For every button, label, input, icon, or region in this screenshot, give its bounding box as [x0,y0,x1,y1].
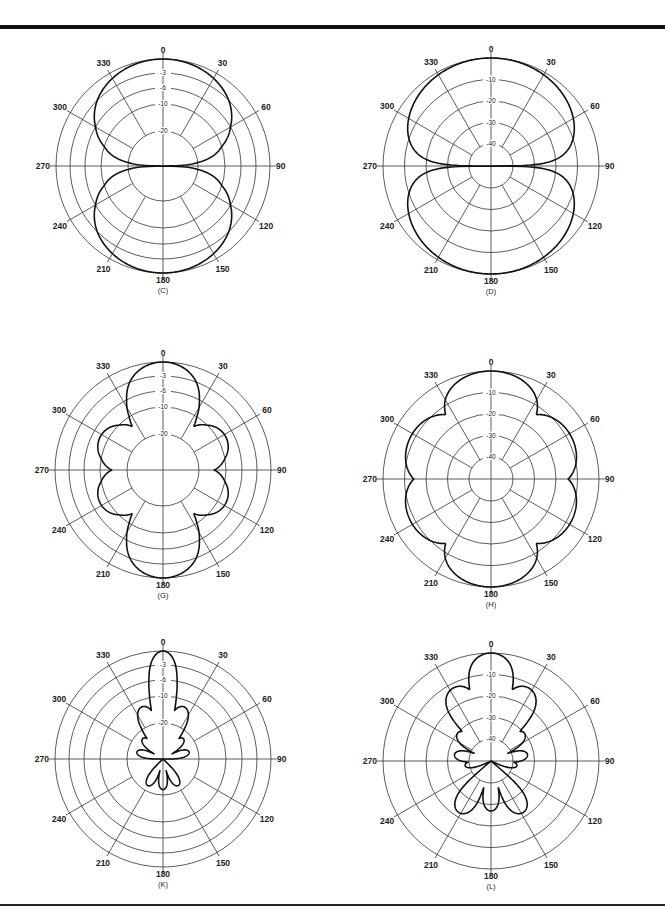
spoke-line [66,777,132,815]
polar-chart-L: 0306090120150180210240270300330-10-20-30… [363,639,615,891]
angle-label: 330 [96,650,110,660]
angle-label: 210 [96,569,110,579]
ring-label: -6 [160,387,166,394]
spoke-line [66,703,132,741]
spoke-line [502,185,547,263]
angle-label: 330 [424,57,438,67]
angle-label: 120 [259,221,273,231]
spoke-line [502,382,547,460]
spoke-line [194,414,260,452]
spoke-line [108,196,146,262]
angle-label: 90 [605,756,615,766]
angle-label: 30 [218,650,228,660]
spoke-line [194,777,260,815]
angle-label: 150 [216,858,230,868]
angle-label: 150 [544,578,558,588]
angle-label: 270 [363,161,377,171]
polar-chart-K: 0306090120150180210240270300330-3-6-10-2… [35,637,287,889]
ring-label: -6 [160,676,166,683]
angle-label: 270 [35,754,49,764]
angle-label: 120 [260,525,274,535]
angle-label: 330 [96,58,110,68]
spoke-line [435,69,480,147]
ring-label: -30 [486,432,496,439]
chart-caption: (H) [486,600,497,609]
angle-label: 60 [590,414,600,424]
angle-label: 270 [363,474,377,484]
angle-label: 90 [277,465,287,475]
angle-label: 120 [588,534,602,544]
angle-label: 60 [262,405,272,415]
angle-label: 300 [380,414,394,424]
ring-label: -30 [486,714,496,721]
spoke-line [510,772,588,817]
spoke-line [502,664,547,742]
ring-label: -30 [486,119,496,126]
angle-label: 240 [52,525,66,535]
angle-label: 240 [380,816,394,826]
angle-label: 60 [590,101,600,111]
angle-label: 30 [546,57,556,67]
chart-caption: (D) [486,287,497,296]
angle-label: 90 [276,161,286,171]
polar-chart-D: 0306090120150180210240270300330-10-20-30… [363,44,615,296]
spoke-line [510,110,588,155]
angle-label: 0 [489,639,494,649]
spoke-line [394,110,472,155]
figure-page: 0306090120150180210240270300330-3-6-10-2… [0,0,665,915]
angle-label: 0 [161,45,166,55]
spoke-line [502,780,547,858]
angle-label: 300 [52,405,66,415]
polar-chart-H: 0306090120150180210240270300330-10-20-30… [363,357,615,609]
angle-label: 210 [96,858,110,868]
ring-label: -20 [158,127,168,134]
chart-caption: (L) [486,882,496,891]
ring-label: -20 [486,692,496,699]
angle-label: 180 [156,580,170,590]
angle-label: 60 [261,102,271,112]
ring-label: -10 [158,692,168,699]
angle-label: 90 [605,161,615,171]
ring-label: -10 [486,76,496,83]
angle-label: 0 [489,44,494,54]
angle-label: 330 [96,361,110,371]
polar-charts: 0306090120150180210240270300330-3-6-10-2… [0,0,665,915]
spoke-line [435,498,480,576]
angle-label: 210 [424,578,438,588]
ring-label: -10 [158,100,168,107]
spoke-line [435,382,480,460]
angle-label: 30 [546,652,556,662]
spoke-line [181,70,219,136]
ring-label: -20 [486,97,496,104]
angle-label: 330 [424,652,438,662]
spoke-line [435,780,480,858]
angle-label: 330 [424,370,438,380]
ring-label: -10 [486,671,496,678]
angle-label: 120 [588,816,602,826]
angle-label: 270 [363,756,377,766]
angle-label: 120 [588,221,602,231]
spoke-line [193,111,259,149]
spoke-line [66,488,132,526]
ring-label: -40 [486,140,496,147]
angle-label: 300 [380,696,394,706]
angle-label: 30 [218,361,228,371]
spoke-line [435,664,480,742]
angle-label: 300 [53,102,67,112]
angle-label: 300 [380,101,394,111]
angle-label: 180 [156,869,170,879]
angle-label: 180 [484,871,498,881]
spoke-line [194,488,260,526]
angle-label: 300 [52,694,66,704]
ring-label: -20 [158,719,168,726]
spoke-line [107,790,145,856]
angle-label: 150 [544,860,558,870]
ring-label: -20 [158,430,168,437]
angle-label: 210 [424,265,438,275]
angle-label: 0 [161,637,166,647]
ring-label: -40 [486,735,496,742]
spoke-line [194,703,260,741]
chart-caption: (G) [158,591,169,600]
ring-label: -20 [486,410,496,417]
polar-chart-C: 0306090120150180210240270300330-3-6-10-2… [36,45,286,295]
